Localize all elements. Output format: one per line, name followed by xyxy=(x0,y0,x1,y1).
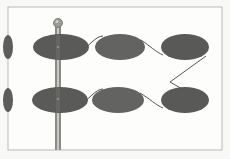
partial-disk-top-left xyxy=(3,35,13,59)
frame-border xyxy=(8,7,222,150)
diagram-svg xyxy=(0,0,230,159)
disk-top-3 xyxy=(161,34,209,60)
disk-bottom-2 xyxy=(92,87,144,113)
center-dot-bottom xyxy=(57,98,59,100)
pole-ball-top xyxy=(54,19,63,28)
center-dot-top xyxy=(57,46,59,48)
disk-bottom-3 xyxy=(161,87,209,113)
diagram-canvas xyxy=(0,0,230,159)
pole-ball-shine xyxy=(56,20,59,23)
disk-top-2 xyxy=(95,34,145,60)
partial-disk-bottom-left xyxy=(3,88,13,112)
disk-top-1 xyxy=(33,34,89,60)
